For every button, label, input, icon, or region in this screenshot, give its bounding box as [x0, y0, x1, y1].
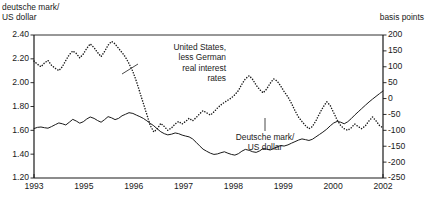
ytick-label-right: 0 — [388, 94, 393, 103]
xtick-label: 1993 — [12, 182, 56, 191]
ytick-label-right: -150 — [388, 142, 405, 151]
ytick-label-left: 2.00 — [12, 78, 29, 87]
ytick-label-right: -200 — [388, 158, 405, 167]
ytick-label-left: 1.80 — [12, 102, 29, 111]
chart-figure: deutsche mark/ US dollar basis points 2.… — [0, 0, 427, 206]
ytick-label-left: 1.40 — [12, 150, 29, 159]
ytick-label-left: 1.60 — [12, 126, 29, 135]
ytick-label-right: -100 — [388, 126, 405, 135]
xtick-label: 2002 — [361, 182, 405, 191]
ytick-label-right: 150 — [388, 46, 402, 55]
ytick-label-right: 100 — [388, 62, 402, 71]
xtick-label: 2000 — [311, 182, 355, 191]
ytick-label-right: -50 — [388, 110, 400, 119]
annotation-dm-usd: Deutsche mark/ US dollar — [212, 132, 318, 153]
ytick-label-right: 200 — [388, 30, 402, 39]
annotation-us-rates: United States, less German real interest… — [140, 42, 226, 83]
ytick-label-left: 2.20 — [12, 54, 29, 63]
ytick-label-right: 50 — [388, 78, 398, 87]
xtick-label: 1995 — [62, 182, 106, 191]
ytick-label-left: 2.40 — [12, 30, 29, 39]
xtick-label: 1997 — [162, 182, 206, 191]
xtick-label: 1996 — [112, 182, 156, 191]
series-path-0 — [34, 91, 383, 155]
xtick-label: 1999 — [261, 182, 305, 191]
xtick-label: 1998 — [211, 182, 255, 191]
plot-area — [0, 0, 427, 206]
